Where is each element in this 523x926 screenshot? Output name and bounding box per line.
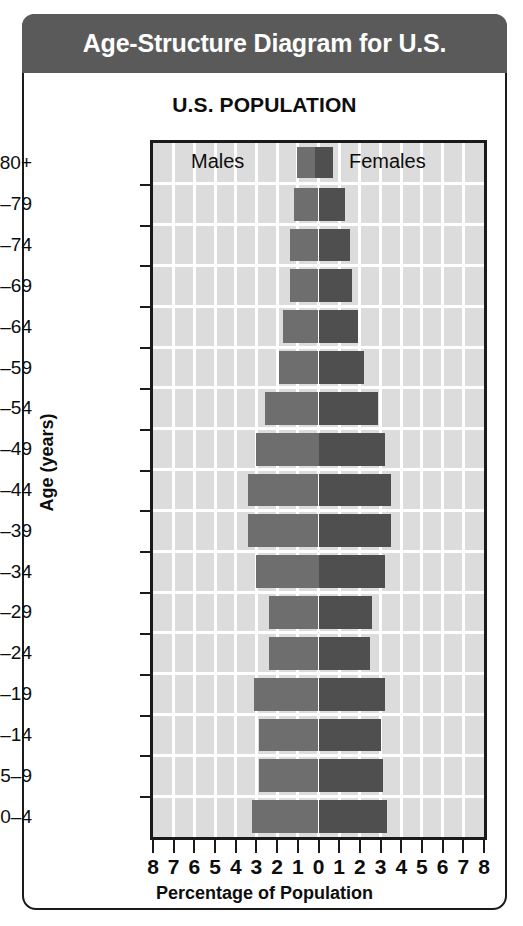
y-axis-tick-mark xyxy=(140,306,150,308)
y-axis-tick-mark xyxy=(140,674,150,676)
y-axis-tick-label: 25–29 xyxy=(0,601,32,623)
horizontal-gridline xyxy=(153,223,484,226)
y-axis-tick-mark xyxy=(140,265,150,267)
bar-male xyxy=(265,392,319,425)
x-axis-tick-mark xyxy=(442,840,444,853)
bar-female xyxy=(319,555,385,588)
horizontal-gridline xyxy=(153,754,484,757)
y-axis-tick-label: 0–4 xyxy=(0,806,32,828)
horizontal-gridline xyxy=(153,264,484,267)
chart-title: U.S. POPULATION xyxy=(22,93,507,117)
horizontal-gridline xyxy=(153,346,484,349)
x-axis-tick-mark xyxy=(276,840,278,853)
legend-swatch xyxy=(297,147,333,178)
y-axis-tick-mark xyxy=(140,184,150,186)
x-axis-tick-mark xyxy=(380,840,382,853)
bar-female xyxy=(319,759,383,792)
bar-female xyxy=(319,474,391,507)
y-axis-tick-mark xyxy=(140,592,150,594)
pyramid-row xyxy=(153,514,484,547)
y-axis-tick-label: 10–14 xyxy=(0,724,32,746)
horizontal-gridline xyxy=(153,672,484,675)
bar-male xyxy=(259,719,319,752)
bar-female xyxy=(319,678,385,711)
y-axis-title: Age (years) xyxy=(37,393,58,533)
bar-male xyxy=(254,678,318,711)
y-axis-tick-label: 70–74 xyxy=(0,234,32,256)
pyramid-row xyxy=(153,392,484,425)
bar-female xyxy=(319,719,381,752)
y-axis-tick-mark xyxy=(140,633,150,635)
x-axis-tick-mark xyxy=(318,840,320,853)
y-axis-tick-mark xyxy=(140,347,150,349)
x-axis-tick-mark xyxy=(483,840,485,853)
bar-male xyxy=(256,555,318,588)
pyramid-row xyxy=(153,800,484,833)
pyramid-row xyxy=(153,188,484,221)
x-axis-tick-mark xyxy=(214,840,216,853)
y-axis-tick-mark xyxy=(140,796,150,798)
chart-legend: Males Females xyxy=(153,143,484,184)
bar-male xyxy=(269,596,319,629)
horizontal-gridline xyxy=(153,468,484,471)
y-axis-tick-label: 60–64 xyxy=(0,316,32,338)
y-axis-tick-label: 50–54 xyxy=(0,397,32,419)
bar-female xyxy=(319,596,373,629)
pyramid-row xyxy=(153,637,484,670)
y-axis-tick-label: 30–34 xyxy=(0,561,32,583)
x-axis-tick-mark xyxy=(400,840,402,853)
pyramid-row xyxy=(153,269,484,302)
plot-wrap: Males Females xyxy=(150,140,487,840)
bar-female xyxy=(319,800,387,833)
bar-female xyxy=(319,188,346,221)
bar-male xyxy=(248,514,318,547)
legend-label-females: Females xyxy=(349,150,426,173)
bar-male xyxy=(252,800,318,833)
horizontal-gridline xyxy=(153,305,484,308)
x-axis-tick-mark xyxy=(359,840,361,853)
y-axis-tick-mark xyxy=(140,429,150,431)
plot-area: Males Females xyxy=(150,140,487,840)
legend-swatch-male xyxy=(297,147,315,178)
y-axis-tick-label: 15–19 xyxy=(0,683,32,705)
bar-male xyxy=(279,351,318,384)
pyramid-row xyxy=(153,433,484,466)
horizontal-gridline xyxy=(153,509,484,512)
y-axis-tick-mark xyxy=(140,470,150,472)
pyramid-row xyxy=(153,555,484,588)
pyramid-row xyxy=(153,678,484,711)
y-axis-tick-mark xyxy=(140,755,150,757)
x-axis-tick-mark xyxy=(462,840,464,853)
pyramid-row xyxy=(153,719,484,752)
legend-swatch-female xyxy=(315,147,333,178)
bar-female xyxy=(319,433,385,466)
pyramid-row xyxy=(153,351,484,384)
y-axis-tick-label: 35–39 xyxy=(0,520,32,542)
x-axis-tick-mark xyxy=(152,840,154,853)
horizontal-gridline xyxy=(153,795,484,798)
page-title: Age-Structure Diagram for U.S. xyxy=(83,29,447,58)
y-axis-tick-label: 40–44 xyxy=(0,479,32,501)
pyramid-row xyxy=(153,474,484,507)
bar-female xyxy=(319,392,379,425)
bar-male xyxy=(283,310,318,343)
horizontal-gridline xyxy=(153,591,484,594)
bar-male xyxy=(248,474,318,507)
y-axis-tick-mark xyxy=(140,388,150,390)
x-axis-tick-mark xyxy=(173,840,175,853)
horizontal-gridline xyxy=(153,386,484,389)
bar-female xyxy=(319,229,350,262)
x-axis-tick-mark xyxy=(235,840,237,853)
x-axis-tick-mark xyxy=(297,840,299,853)
y-axis-tick-mark xyxy=(140,551,150,553)
y-axis-tick-label: 80+ xyxy=(0,152,32,174)
bar-male xyxy=(256,433,318,466)
bar-male xyxy=(269,637,319,670)
horizontal-gridline xyxy=(153,427,484,430)
bar-male xyxy=(290,229,319,262)
y-axis-tick-label: 75–79 xyxy=(0,193,32,215)
bar-male xyxy=(290,269,319,302)
x-axis-tick-mark xyxy=(193,840,195,853)
y-axis-tick-label: 55–59 xyxy=(0,357,32,379)
pyramid-row xyxy=(153,596,484,629)
